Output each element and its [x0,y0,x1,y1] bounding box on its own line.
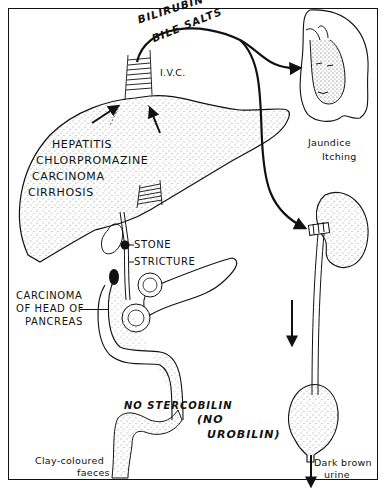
kidney-icon [292,192,368,395]
ivc-label: I.V.C. [160,67,186,79]
stone-icon [121,241,130,250]
no-urobilin-label-2: UROBILIN) [207,428,281,442]
no-urobilin-label-1: (NO [197,413,224,427]
pancreas-pointer [80,309,108,310]
pancreas-icon [98,258,237,420]
cause-hepatitis: HEPATITIS [52,138,112,152]
faeces-label-1: Clay-coloured [35,455,104,467]
itching-label: Itching [322,151,357,163]
colon-icon [112,410,182,478]
stricture-label: STRICTURE [134,256,195,269]
cause-carcinoma: CARCINOMA [32,170,105,184]
stone-label: STONE [134,239,171,252]
diagram-illustration [0,0,384,490]
no-stercobilin-label: NO STERCOBILIN [124,400,233,413]
cause-cirrhosis: CIRRHOSIS [28,186,94,200]
face-icon [300,10,368,121]
pancreas-label-1: CARCINOMA [16,290,82,303]
pancreas-label-3: PANCREAS [25,316,83,329]
pancreas-label-2: OF HEAD OF [16,303,84,316]
faeces-label-2: faeces [77,467,110,479]
urine-label-2: urine [324,469,350,481]
jaundice-label: Jaundice [308,137,351,149]
cause-chlorpromazine: CHLORPROMAZINE [36,154,148,168]
urine-label-1: Dark brown [314,457,372,469]
